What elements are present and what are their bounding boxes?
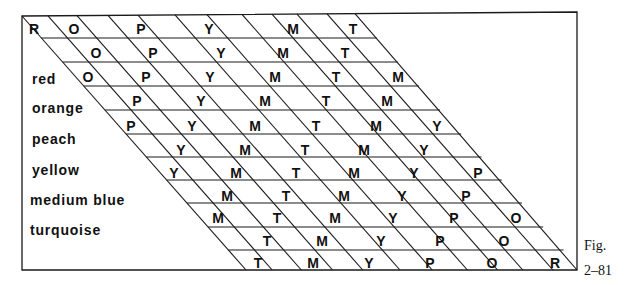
cell-letter: R (550, 255, 560, 271)
cell-letter: R (29, 21, 39, 37)
row-label: red (32, 71, 56, 87)
cell-letter: Y (196, 93, 206, 109)
cell-letter: P (425, 255, 434, 271)
cell-letter: T (322, 93, 331, 109)
cell-letter: P (449, 210, 458, 226)
cell-letter: P (473, 165, 482, 181)
cell-letter: O (511, 210, 522, 226)
cell-letter: Y (204, 21, 214, 37)
cell-letter: O (83, 69, 94, 85)
cell-letter: M (338, 188, 350, 204)
cell-letter: M (259, 93, 271, 109)
cell-letter: T (341, 45, 350, 61)
cell-letter: Y (376, 233, 386, 249)
frame-border (22, 12, 577, 270)
cell-letter: P (435, 233, 444, 249)
cell-letter: M (358, 142, 370, 158)
cell-letter: M (269, 69, 281, 85)
cell-letter: P (136, 21, 145, 37)
cell-letter: M (221, 188, 233, 204)
cell-letter: Y (169, 165, 179, 181)
cell-letter: T (282, 188, 291, 204)
cell-letter: T (263, 233, 272, 249)
cell-letter: O (487, 255, 498, 271)
row-label: turquoise (30, 222, 101, 238)
cell-letter: Y (388, 210, 398, 226)
cell-letter: P (126, 118, 135, 134)
cell-letter: T (273, 210, 282, 226)
cell-letter: M (287, 21, 299, 37)
cell-letters: ROPYMTOPYMTOPYMTMPYMTMPYMTMYYMTMYYMTMYPM… (29, 21, 560, 271)
cell-letter: T (301, 142, 310, 158)
cell-letter: T (292, 165, 301, 181)
caption-number: 2–81 (584, 263, 612, 278)
cell-letter: Y (205, 69, 215, 85)
cell-letter: Y (176, 142, 186, 158)
cell-letter: T (332, 69, 341, 85)
cell-letter: Y (187, 118, 197, 134)
cell-letter: Y (364, 255, 374, 271)
diagonal-grid-lines (22, 14, 577, 270)
row-label: peach (32, 131, 76, 147)
row-labels: redorangepeachyellowmedium blueturquoise (30, 71, 125, 238)
cell-letter: M (381, 93, 393, 109)
diagonal-line (297, 14, 523, 270)
diagonal-line (77, 16, 301, 270)
row-label: orange (32, 100, 83, 116)
color-sequence-diagram: ROPYMTOPYMTOPYMTMPYMTMPYMTMYYMTMYYMTMYPM… (0, 0, 631, 285)
cell-letter: M (239, 142, 251, 158)
cell-letter: P (132, 93, 141, 109)
row-label: yellow (32, 162, 80, 178)
caption-fig: Fig. (584, 238, 606, 253)
outer-frame (22, 12, 577, 270)
cell-letter: M (307, 255, 319, 271)
cell-letter: Y (432, 118, 442, 134)
cell-letter: M (277, 45, 289, 61)
cell-letter: P (148, 45, 157, 61)
cell-letter: Y (409, 165, 419, 181)
cell-letter: Y (397, 188, 407, 204)
cell-letter: T (254, 255, 263, 271)
cell-letter: Y (216, 45, 226, 61)
cell-letter: T (312, 118, 321, 134)
cell-letter: O (69, 21, 80, 37)
cell-letter: O (91, 45, 102, 61)
diagonal-line (242, 14, 467, 270)
cell-letter: M (230, 165, 242, 181)
cell-letter: M (370, 118, 382, 134)
cell-letter: M (249, 118, 261, 134)
diagonal-line (355, 14, 577, 270)
cell-letter: M (329, 210, 341, 226)
cell-letter: T (349, 21, 358, 37)
row-label: medium blue (30, 192, 125, 208)
cell-letter: M (348, 165, 360, 181)
figure-caption: Fig. 2–81 (584, 238, 612, 278)
cell-letter: Y (419, 142, 429, 158)
cell-letter: P (141, 69, 150, 85)
cell-letter: M (392, 69, 404, 85)
cell-letter: O (499, 233, 510, 249)
cell-letter: M (212, 210, 224, 226)
cell-letter: M (316, 233, 328, 249)
cell-letter: P (461, 188, 470, 204)
